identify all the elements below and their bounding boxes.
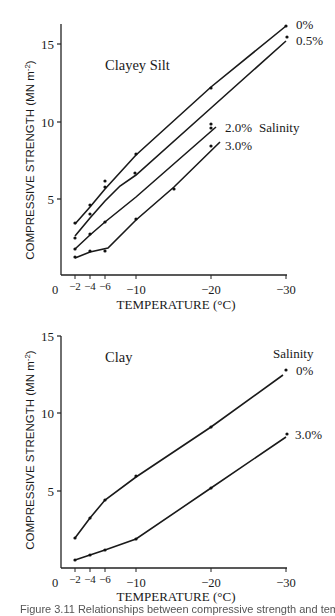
y-tick-15: 15 bbox=[41, 329, 54, 344]
y-tick-15: 15 bbox=[41, 37, 54, 52]
y-tick-5: 5 bbox=[48, 484, 55, 499]
chart-clay: 15 10 5 0 −2 −4 −6 −10 −20 −30 TEMPERATU… bbox=[23, 329, 322, 604]
x-tick-0: 0 bbox=[52, 283, 58, 297]
x-tick-m30: −30 bbox=[276, 283, 296, 297]
y-tick-10: 10 bbox=[41, 115, 54, 130]
y-tick-10: 10 bbox=[41, 406, 54, 421]
series-2pct bbox=[75, 127, 216, 249]
label-salinity: Salinity bbox=[259, 120, 300, 135]
label-0pct: 0% bbox=[296, 363, 314, 378]
x-tick-m6: −6 bbox=[99, 280, 111, 292]
y-axis-label: COMPRESSIVE STRENGTH (MN m-2) bbox=[23, 60, 36, 260]
label-salinity: Salinity bbox=[273, 346, 314, 361]
x-tick-0: 0 bbox=[52, 576, 58, 590]
label-2pct: 2.0% bbox=[225, 120, 252, 135]
x-tick-m20: −20 bbox=[201, 576, 221, 590]
label-3pct: 3.0% bbox=[225, 138, 252, 153]
figure: 15 10 5 0 −2 −4 −6 −10 −20 −30 TEMPERATU… bbox=[0, 0, 335, 616]
y-axis-label: COMPRESSIVE STRENGTH (MN m-2) bbox=[23, 350, 36, 550]
x-tick-m4: −4 bbox=[84, 573, 96, 585]
x-axis-label: TEMPERATURE (°C) bbox=[117, 297, 236, 312]
chart-title: Clay bbox=[105, 349, 133, 365]
x-tick-m10: −10 bbox=[126, 576, 146, 590]
x-tick-m2: −2 bbox=[69, 573, 81, 585]
chart-clayey-silt: 15 10 5 0 −2 −4 −6 −10 −20 −30 TEMPERATU… bbox=[23, 17, 323, 312]
x-tick-m20: −20 bbox=[201, 283, 221, 297]
x-tick-m30: −30 bbox=[276, 576, 296, 590]
chart-title: Clayey Silt bbox=[105, 57, 170, 73]
data-points bbox=[73, 368, 288, 561]
figure-caption: Figure 3.11 Relationships between compre… bbox=[20, 603, 335, 616]
x-tick-m4: −4 bbox=[84, 280, 96, 292]
x-tick-m10: −10 bbox=[126, 283, 146, 297]
y-tick-5: 5 bbox=[48, 192, 55, 207]
series-0pct bbox=[75, 26, 286, 224]
x-tick-m2: −2 bbox=[69, 280, 81, 292]
label-0pct: 0% bbox=[296, 17, 314, 32]
x-tick-m6: −6 bbox=[99, 573, 111, 585]
label-3pct: 3.0% bbox=[295, 427, 322, 442]
label-0.5pct: 0.5% bbox=[296, 33, 323, 48]
x-axis-label: TEMPERATURE (°C) bbox=[117, 589, 236, 604]
series-0pct bbox=[75, 375, 283, 538]
